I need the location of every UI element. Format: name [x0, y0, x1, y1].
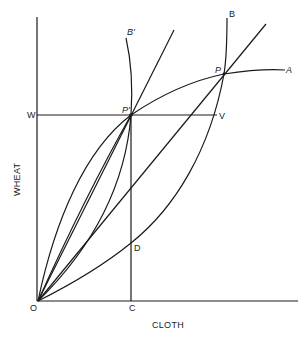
- x-axis-title: CLOTH: [152, 320, 184, 330]
- label-v: V: [219, 112, 225, 121]
- curve-b: [38, 18, 227, 301]
- offer-curve-diagram: [0, 0, 308, 339]
- label-d: D: [134, 244, 141, 253]
- label-p: P: [215, 66, 221, 75]
- ray-o-pprime: [38, 30, 174, 301]
- label-w: W: [27, 111, 36, 120]
- point-p: [223, 73, 226, 76]
- label-a: A: [286, 66, 292, 75]
- ray-o-p: [38, 24, 266, 301]
- label-o: O: [30, 304, 37, 313]
- curve-a: [38, 70, 285, 301]
- y-axis-title: WHEAT: [12, 163, 22, 196]
- label-b-prime: B': [127, 28, 135, 37]
- label-b: B: [229, 10, 235, 19]
- label-c: C: [129, 304, 136, 313]
- label-p-prime: P': [122, 106, 130, 115]
